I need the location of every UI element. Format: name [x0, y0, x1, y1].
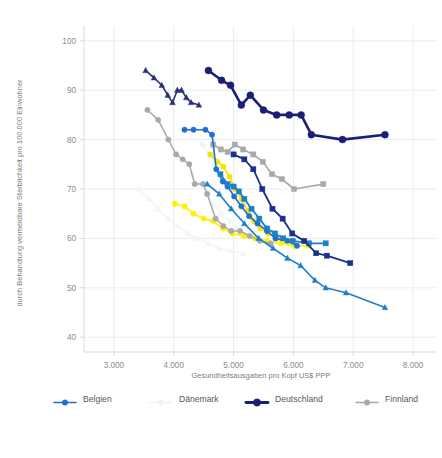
data-point-circle	[201, 216, 206, 221]
legend-swatch-circle-icon	[52, 394, 78, 405]
y-tick-label: 60	[67, 234, 77, 243]
data-point-square	[279, 177, 284, 182]
legend-item-belgien[interactable]: Belgien	[52, 392, 148, 407]
data-point-circle	[200, 142, 205, 147]
x-tick-label: 6.000	[283, 361, 304, 370]
y-tick-label: 50	[67, 284, 77, 293]
x-tick-label: 3.000	[104, 361, 125, 370]
data-point-square	[348, 260, 353, 265]
data-point-circle	[191, 211, 196, 216]
data-point-circle	[173, 152, 178, 157]
data-point-circle	[155, 117, 160, 122]
data-point-square	[264, 226, 269, 231]
legend-swatch-circle-icon	[354, 394, 380, 405]
data-point-square	[281, 236, 286, 241]
data-point-circle	[182, 204, 187, 209]
data-point-circle	[213, 216, 218, 221]
data-point-square	[257, 216, 262, 221]
data-point-circle	[172, 201, 177, 206]
data-point-circle	[218, 77, 225, 84]
data-point-circle	[180, 157, 185, 162]
data-point-circle	[273, 236, 278, 241]
data-point-circle	[247, 233, 252, 238]
data-point-square	[231, 152, 236, 157]
data-point-circle	[208, 152, 213, 157]
x-tick-label: 4.000	[163, 361, 184, 370]
data-point-circle	[221, 164, 226, 169]
data-point-circle	[247, 92, 254, 99]
data-point-circle	[214, 167, 219, 172]
data-point-circle	[308, 131, 315, 138]
y-axis-title: durch Behandlung vermeidbare Sterblichke…	[15, 79, 24, 307]
data-point-circle	[62, 400, 68, 406]
legend-swatch-circle-icon	[148, 394, 174, 405]
data-point-square	[236, 189, 241, 194]
data-point-square	[269, 172, 274, 177]
data-point-square	[324, 253, 329, 258]
data-point-square	[272, 231, 277, 236]
data-point-square	[232, 142, 237, 147]
data-point-square	[241, 147, 246, 152]
y-tick-label: 70	[67, 185, 77, 194]
legend-item-d-nemark[interactable]: Dänemark	[148, 392, 244, 407]
data-point-circle	[260, 106, 267, 113]
data-point-circle	[205, 191, 210, 196]
legend-label: Deutschland	[275, 394, 323, 405]
data-point-circle	[228, 228, 233, 233]
x-tick-label: 5.000	[223, 361, 244, 370]
legend-label: Finnland	[385, 394, 418, 405]
data-point-circle	[182, 127, 187, 132]
y-tick-label: 40	[67, 333, 77, 342]
data-point-square	[251, 167, 256, 172]
y-tick-label: 80	[67, 136, 77, 145]
data-point-square	[242, 196, 247, 201]
data-point-square	[321, 181, 326, 186]
data-point-square	[251, 152, 256, 157]
data-point-square	[225, 149, 230, 154]
legend-item-finnland[interactable]: Finnland	[354, 392, 442, 407]
data-point-circle	[237, 228, 242, 233]
data-point-square	[225, 181, 230, 186]
data-point-circle	[192, 181, 197, 186]
data-point-circle	[238, 102, 245, 109]
data-point-square	[290, 231, 295, 236]
data-point-square	[242, 157, 247, 162]
data-point-square	[290, 238, 295, 243]
y-tick-label: 100	[62, 37, 76, 46]
data-point-square	[249, 206, 254, 211]
data-point-square	[218, 172, 223, 177]
data-point-square	[260, 186, 265, 191]
data-point-circle	[273, 111, 280, 118]
legend-swatch-circle-icon	[244, 394, 270, 405]
data-point-circle	[255, 221, 260, 226]
data-point-circle	[166, 137, 171, 142]
data-point-circle	[221, 223, 226, 228]
scatter-line-chart: 4050607080901003.0004.0005.0006.0007.000…	[0, 0, 442, 390]
chart-legend: BelgienDänemarkDeutschlandFinnlandFrankr…	[0, 392, 442, 458]
x-axis-title: Gesundheitsausgaben pro Kopf US$ PPP	[191, 371, 330, 380]
data-point-circle	[205, 67, 212, 74]
data-point-circle	[294, 243, 299, 248]
data-point-square	[260, 159, 265, 164]
data-point-circle	[218, 211, 223, 216]
data-point-circle	[298, 111, 305, 118]
data-point-circle	[203, 127, 208, 132]
data-point-circle	[381, 131, 388, 138]
data-point-square	[323, 241, 328, 246]
chart-figure: 4050607080901003.0004.0005.0006.0007.000…	[0, 0, 442, 458]
legend-label: Belgien	[83, 394, 112, 405]
data-point-circle	[286, 111, 293, 118]
data-point-circle	[187, 162, 192, 167]
data-point-circle	[278, 241, 283, 246]
data-point-circle	[253, 399, 260, 406]
legend-item-deutschland[interactable]: Deutschland	[244, 392, 354, 407]
legend-label: Dänemark	[179, 394, 219, 405]
data-point-circle	[239, 204, 244, 209]
data-point-square	[231, 184, 236, 189]
data-point-square	[302, 238, 307, 243]
data-point-circle	[364, 400, 370, 406]
y-tick-label: 90	[67, 86, 77, 95]
data-point-circle	[246, 213, 251, 218]
data-point-circle	[227, 82, 234, 89]
data-point-square	[280, 216, 285, 221]
